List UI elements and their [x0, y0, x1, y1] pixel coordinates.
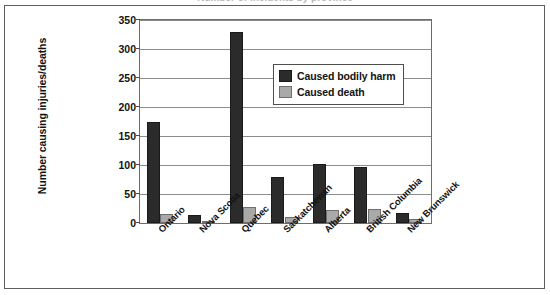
y-axis-tick-label: 0: [102, 217, 136, 229]
figure-container: Number of incidents by province Number c…: [0, 0, 550, 295]
legend-item-bodily-harm: Caused bodily harm: [279, 68, 396, 84]
bar-group: [265, 20, 307, 223]
chart-legend: Caused bodily harm Caused death: [273, 64, 404, 105]
legend-item-caused-death: Caused death: [279, 84, 396, 100]
y-axis-tick-label: 150: [102, 130, 136, 142]
bar-group: [182, 20, 224, 223]
cropped-title-text: Number of incidents by province: [0, 0, 550, 3]
bar-group: [348, 20, 390, 223]
bar-bodily-harm: [396, 213, 409, 223]
bar-chart: Number causing injuries/deaths 050100150…: [5, 6, 546, 290]
x-axis-labels: OntarioNova ScotiaQuebecSaskatchewanAlbe…: [139, 223, 430, 289]
y-axis-tick-label: 200: [102, 101, 136, 113]
plot-area: 050100150200250300350: [139, 19, 432, 224]
legend-swatch-icon-caused-death: [279, 86, 292, 98]
cropped-title-remnant: Number of incidents by province: [0, 0, 550, 4]
y-axis-tick-label: 350: [102, 14, 136, 26]
y-axis-tick-label: 100: [102, 159, 136, 171]
bar-bodily-harm: [354, 167, 367, 223]
y-axis-title: Number causing injuries/deaths: [36, 16, 48, 216]
bar-bodily-harm: [188, 215, 201, 223]
bar-bodily-harm: [271, 177, 284, 223]
bar-groups: [140, 20, 431, 223]
y-axis-tick-label: 300: [102, 43, 136, 55]
legend-swatch-icon-bodily-harm: [279, 70, 292, 82]
bar-group: [223, 20, 265, 223]
y-axis-tick-label: 50: [102, 188, 136, 200]
y-axis-tick-label: 250: [102, 72, 136, 84]
scan-page-frame: Number causing injuries/deaths 050100150…: [4, 5, 545, 289]
legend-label-bodily-harm: Caused bodily harm: [297, 70, 396, 82]
legend-label-caused-death: Caused death: [297, 86, 365, 98]
bar-bodily-harm: [147, 122, 160, 223]
bar-group: [140, 20, 182, 223]
